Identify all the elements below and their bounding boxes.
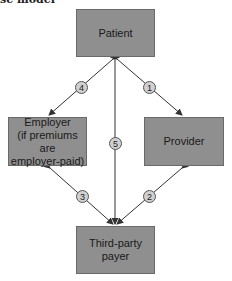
- node-employer-label: Employer: [24, 116, 70, 129]
- node-employer-note-1: (if premiums are: [9, 129, 86, 155]
- node-provider-label: Provider: [164, 135, 205, 148]
- edge-badge-3: 3: [76, 190, 89, 203]
- node-patient-label: Patient: [98, 27, 132, 40]
- edge-badge-4: 4: [75, 81, 88, 94]
- node-employer-note-2: employer-paid): [11, 155, 84, 168]
- edge-badge-1: 1: [143, 81, 156, 94]
- node-payer-label-1: Third-party: [89, 237, 142, 250]
- edge-badge-2: 2: [143, 190, 156, 203]
- node-patient: Patient: [76, 9, 155, 57]
- node-third-party-payer: Third-party payer: [76, 226, 155, 274]
- node-provider: Provider: [144, 117, 224, 166]
- edge-badge-5: 5: [109, 137, 122, 150]
- node-payer-label-2: payer: [102, 250, 130, 263]
- node-employer: Employer (if premiums are employer-paid): [8, 117, 87, 166]
